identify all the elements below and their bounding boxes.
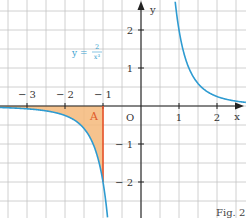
x-tick-label: − 2 xyxy=(56,89,74,100)
x-tick-label: − 1 xyxy=(94,89,112,100)
figure-caption: Fig. 2 xyxy=(216,207,245,218)
y-tick-label: 1 xyxy=(127,63,133,74)
function-label-denominator: x³ xyxy=(94,53,101,61)
function-graph: − 3 − 2 − 1 1 2 2 1 − 1 − 2 O x y y = 2 … xyxy=(0,0,246,218)
function-label-lhs: y = xyxy=(71,48,88,58)
origin-label: O xyxy=(126,112,134,123)
y-tick-label: 2 xyxy=(127,25,133,36)
x-axis-arrow-icon xyxy=(235,103,244,110)
x-tick-label: − 3 xyxy=(18,89,36,100)
function-label-numerator: 2 xyxy=(95,43,99,51)
y-tick-label: − 2 xyxy=(115,177,133,188)
y-axis-arrow-icon xyxy=(138,1,145,10)
y-axis-label: y xyxy=(149,4,156,15)
area-label: A xyxy=(89,110,99,123)
x-tick-label: 1 xyxy=(176,112,182,123)
x-tick-label: 2 xyxy=(214,112,220,123)
x-axis-label: x xyxy=(234,111,240,122)
y-tick-label: − 1 xyxy=(115,139,133,150)
